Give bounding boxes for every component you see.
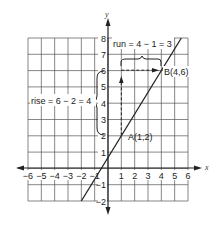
x-axis-arrow-left	[16, 166, 24, 171]
y-tick-label: −1	[96, 180, 106, 190]
x-tick-label: 6	[185, 171, 190, 181]
y-tick-label: 5	[101, 82, 106, 92]
run-brace	[121, 56, 161, 66]
x-tick-label: −5	[36, 171, 46, 181]
x-tick-label: −4	[50, 171, 60, 181]
x-tick-label: −2	[76, 171, 86, 181]
point-b-label: B(4,6)	[164, 67, 189, 77]
coordinate-plane: −6−5−4−3−2−1123456−2−112345678 x y run =…	[0, 0, 220, 229]
x-tick-label: 2	[132, 171, 137, 181]
rise-arrowhead-icon	[119, 76, 124, 83]
y-tick-label: 7	[101, 50, 106, 60]
x-tick-label: 1	[119, 171, 124, 181]
y-tick-label: 8	[101, 34, 106, 44]
x-tick-label: 3	[145, 171, 150, 181]
x-tick-label: 5	[172, 171, 177, 181]
x-axis-arrow-right	[194, 166, 202, 171]
y-tick-label: 3	[101, 115, 106, 125]
x-tick-label: 4	[159, 171, 164, 181]
y-tick-label: 2	[101, 131, 106, 141]
y-axis-arrow-down	[106, 207, 111, 215]
y-axis-label: y	[104, 10, 109, 19]
x-tick-label: −3	[63, 171, 73, 181]
x-axis-label: x	[204, 163, 209, 172]
y-tick-label: 1	[101, 148, 106, 158]
y-axis-arrow-up	[106, 18, 111, 26]
x-tick-label: −6	[23, 171, 33, 181]
point-a-label: A(1,2)	[128, 132, 153, 142]
run-label: run = 4 − 1 = 3	[113, 39, 172, 49]
y-tick-label: −2	[96, 197, 106, 207]
rise-label: rise = 6 − 2 = 4	[31, 96, 91, 106]
y-tick-label: 4	[101, 99, 106, 109]
run-arrowhead-icon	[152, 68, 159, 73]
